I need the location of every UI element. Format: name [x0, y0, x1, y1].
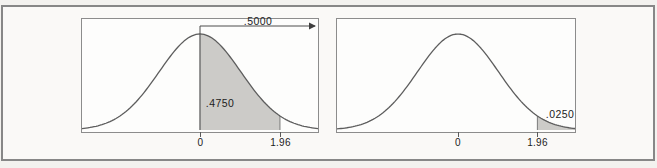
right-x-tick-label-zero: 0	[455, 137, 461, 148]
left-normal-curve-plot	[82, 19, 318, 132]
x-axis-tick	[200, 132, 201, 137]
figure-canvas: .5000 .4750 0 1.96 .0250 0 1.96	[0, 0, 657, 168]
right-x-tick-label-196: 1.96	[527, 137, 548, 148]
x-axis-tick	[537, 132, 538, 137]
left-shaded-area-label: .4750	[206, 97, 234, 109]
right-normal-curve-plot	[337, 19, 575, 132]
left-x-tick-label-196: 1.96	[270, 137, 291, 148]
x-axis-tick	[280, 132, 281, 137]
right-shaded-area-label: .0250	[546, 108, 574, 120]
left-chart-plot-box	[81, 18, 319, 133]
right-chart-plot-box	[336, 18, 576, 133]
right-normal-curve-chart: .0250 0 1.96	[336, 18, 576, 168]
x-axis-tick	[458, 132, 459, 137]
left-normal-curve-chart: .5000 .4750 0 1.96	[81, 18, 319, 168]
left-x-tick-label-zero: 0	[198, 137, 204, 148]
left-arrow-area-label: .5000	[244, 15, 272, 27]
